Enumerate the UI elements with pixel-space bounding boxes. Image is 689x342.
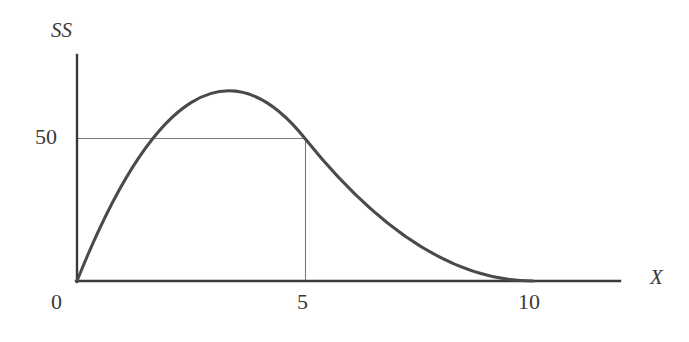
chart-plot-area [0, 0, 689, 342]
x-tick-label-5: 5 [297, 291, 308, 313]
x-tick-label-10: 10 [518, 291, 540, 313]
origin-label: 0 [51, 291, 62, 313]
parabola-chart-figure: SS X 50 0 5 10 [0, 0, 689, 342]
y-tick-label-50: 50 [35, 126, 57, 148]
y-axis-title: SS [51, 20, 72, 41]
x-axis-title: X [650, 267, 663, 288]
